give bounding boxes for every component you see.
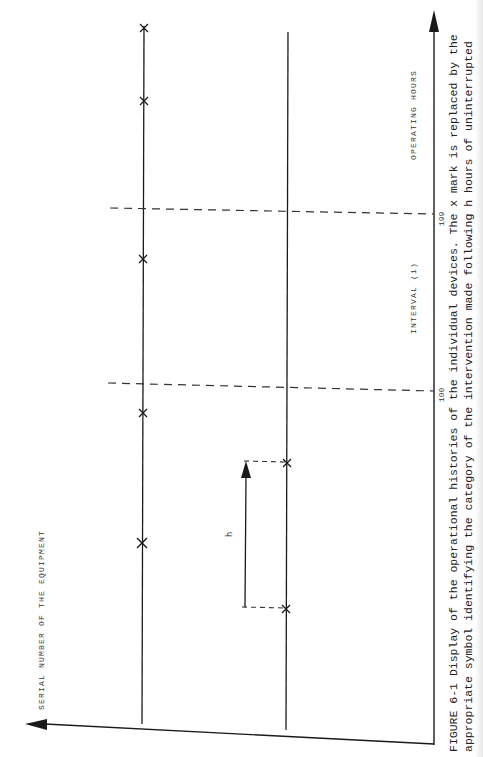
interval-boundary-199 xyxy=(110,208,434,214)
horizontal-axis-label: OPERATING HOURS xyxy=(409,70,418,160)
vertical-axis-label: SERIAL NUMBER OF THE EQUIPMENT xyxy=(37,530,46,710)
interval-label: INTERVAL (i) xyxy=(409,262,418,334)
tick-label-100: 100 xyxy=(437,388,446,402)
h-arrow-up-icon xyxy=(241,461,251,478)
serial-number-axis xyxy=(25,719,434,744)
h-label: h xyxy=(225,532,235,537)
operating-hours-axis xyxy=(429,10,439,745)
tick-label-199: 199 xyxy=(437,212,446,226)
axis-arrow-left-icon xyxy=(25,719,47,730)
axis-arrow-up-icon xyxy=(429,10,439,32)
interval-boundary-100 xyxy=(108,383,434,391)
figure-caption-line-1: FIGURE 6-1 Display of the operational hi… xyxy=(447,34,461,752)
device-line-1 xyxy=(137,24,148,724)
figure-caption-line-2: appropriate symbol identifying the categ… xyxy=(462,41,476,752)
h-interval-bracket xyxy=(241,461,286,608)
device-line-2 xyxy=(282,32,291,730)
